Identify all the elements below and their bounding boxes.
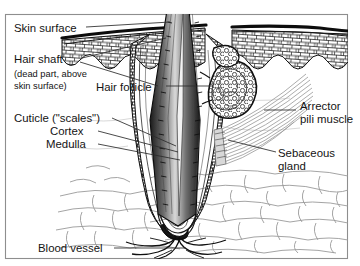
label-hair-follicle: Hair follicle (96, 81, 152, 93)
label-skin-surface: Skin surface (14, 22, 77, 34)
label-hair-shaft-note-1: (dead part, above (14, 69, 87, 79)
label-blood-vessel: Blood vessel (38, 242, 103, 254)
label-hair-shaft: Hair shaft (14, 53, 64, 65)
label-sebaceous-gland-1: Sebaceous (278, 147, 335, 159)
hair-follicle-diagram: Skin surface Hair shaft (dead part, abov… (0, 0, 360, 266)
label-hair-shaft-note-2: skin surface) (14, 81, 67, 91)
illustration-body (56, 0, 348, 261)
label-arrector-pili-2: pili muscle (300, 113, 353, 125)
label-sebaceous-gland-2: gland (278, 160, 306, 172)
leader-skin-surface (86, 22, 170, 27)
label-cortex: Cortex (50, 125, 84, 137)
label-arrector-pili-1: Arrector (300, 100, 341, 112)
label-medulla: Medulla (46, 138, 87, 150)
epidermis (62, 25, 348, 69)
label-cuticle: Cuticle ("scales") (14, 112, 100, 124)
diagram-canvas: Skin surface Hair shaft (dead part, abov… (0, 0, 360, 266)
